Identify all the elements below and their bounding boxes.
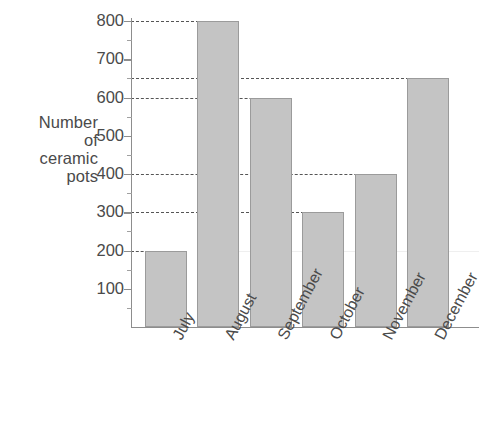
bar-chart: Number of ceramic pots 10020030040050060… bbox=[0, 0, 491, 424]
y-tick-300 bbox=[124, 212, 132, 213]
bar-september[interactable] bbox=[250, 98, 292, 328]
y-tick-label-300: 300 bbox=[96, 203, 124, 220]
y-axis-title-line-3: ceramic bbox=[8, 149, 98, 167]
y-tick-100 bbox=[124, 289, 132, 290]
y-tick-label-800: 800 bbox=[96, 12, 124, 29]
y-minor-tick-650 bbox=[127, 78, 132, 79]
y-axis-line bbox=[131, 18, 132, 328]
gridline-650 bbox=[131, 78, 449, 79]
y-tick-800 bbox=[124, 21, 132, 22]
y-axis-title: Number of ceramic pots bbox=[8, 113, 98, 185]
y-minor-tick-550 bbox=[127, 117, 132, 118]
y-tick-label-400: 400 bbox=[96, 165, 124, 182]
y-tick-500 bbox=[124, 136, 132, 137]
y-tick-label-500: 500 bbox=[96, 127, 124, 144]
y-minor-tick-450 bbox=[127, 155, 132, 156]
y-tick-label-600: 600 bbox=[96, 89, 124, 106]
y-tick-600 bbox=[124, 98, 132, 99]
y-tick-200 bbox=[124, 251, 132, 252]
y-minor-tick-250 bbox=[127, 231, 132, 232]
y-minor-tick-750 bbox=[127, 40, 132, 41]
y-minor-tick-150 bbox=[127, 270, 132, 271]
y-tick-label-200: 200 bbox=[96, 242, 124, 259]
y-tick-700 bbox=[124, 59, 132, 60]
y-axis-title-line-1: Number bbox=[8, 113, 98, 131]
y-tick-400 bbox=[124, 174, 132, 175]
y-tick-label-700: 700 bbox=[96, 50, 124, 67]
y-axis-title-line-2: of bbox=[8, 131, 98, 149]
y-axis-title-line-4: pots bbox=[8, 167, 98, 185]
y-tick-label-100: 100 bbox=[96, 280, 124, 297]
bar-august[interactable] bbox=[197, 21, 239, 327]
y-minor-tick-50 bbox=[127, 308, 132, 309]
y-minor-tick-350 bbox=[127, 193, 132, 194]
